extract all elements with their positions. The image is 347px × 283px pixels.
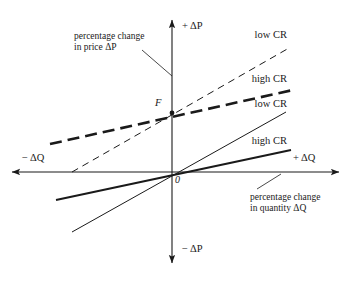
curve-label-high-cr-dashed: high CR <box>252 73 287 85</box>
economics-diagram: + ΔP − ΔP + ΔQ − ΔQ 0 F low CR high CR l… <box>0 0 347 283</box>
point-f-label: F <box>155 97 161 109</box>
origin-label: 0 <box>175 174 180 186</box>
price-caption-leader <box>142 50 172 76</box>
axis-label-delta-q-negative: − ΔQ <box>22 152 44 164</box>
curve-label-low-cr-solid: low CR <box>255 98 287 110</box>
price-caption-line1: percentage change <box>74 31 144 41</box>
axis-label-delta-p-positive: + ΔP <box>182 20 203 32</box>
axis-label-delta-q-positive: + ΔQ <box>293 152 315 164</box>
diagram-canvas <box>0 0 347 283</box>
price-caption: percentage change in price ΔP <box>74 31 144 53</box>
price-caption-line2: in price ΔP <box>74 42 117 52</box>
point-f-marker <box>170 111 175 116</box>
quantity-caption-leader <box>257 174 281 189</box>
curve-label-low-cr-dashed: low CR <box>255 29 287 41</box>
axis-label-delta-p-negative: − ΔP <box>182 243 203 255</box>
quantity-caption: percentage change in quantity ΔQ <box>250 192 320 214</box>
curve-label-high-cr-solid: high CR <box>252 135 287 147</box>
quantity-caption-line1: percentage change <box>250 192 320 202</box>
quantity-caption-line2: in quantity ΔQ <box>250 203 306 213</box>
